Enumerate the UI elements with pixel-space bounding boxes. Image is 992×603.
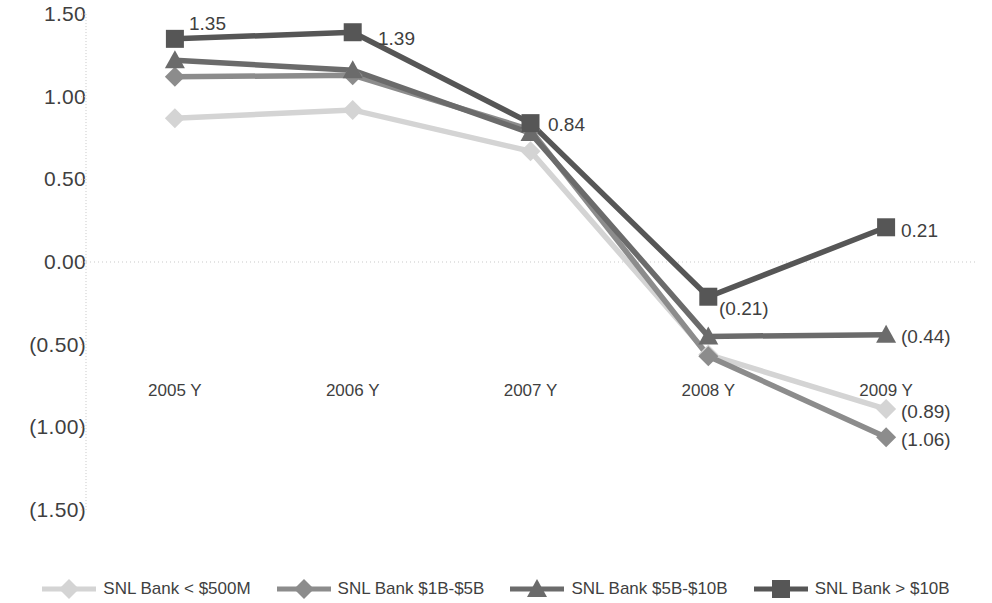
series-data-point bbox=[165, 108, 185, 128]
x-axis-tick-label: 2009 Y bbox=[859, 381, 913, 401]
data-point-label: 1.39 bbox=[378, 28, 415, 50]
series-data-point bbox=[166, 30, 184, 48]
legend-point bbox=[59, 579, 79, 599]
series-data-point bbox=[343, 100, 363, 120]
data-point-label: 1.35 bbox=[189, 13, 226, 35]
x-axis-tick-label: 2007 Y bbox=[504, 381, 558, 401]
data-point-label: 0.84 bbox=[548, 114, 585, 136]
series-data-point bbox=[876, 399, 896, 419]
data-point-label: (0.89) bbox=[901, 401, 951, 423]
axis-group bbox=[81, 14, 975, 510]
series-data-point bbox=[522, 114, 540, 132]
series-data-point bbox=[165, 67, 185, 87]
legend-point bbox=[294, 579, 314, 599]
legend-marker-icon bbox=[42, 579, 96, 599]
legend-item[interactable]: SNL Bank $5B-$10B bbox=[510, 579, 727, 599]
x-axis-tick-label: 2008 Y bbox=[682, 381, 736, 401]
x-axis-tick-label: 2006 Y bbox=[326, 381, 380, 401]
x-axis-tick-label: 2005 Y bbox=[148, 381, 202, 401]
data-point-label: (0.44) bbox=[901, 326, 951, 348]
data-point-label: (1.06) bbox=[901, 429, 951, 451]
series-line bbox=[175, 32, 886, 296]
series-line bbox=[175, 60, 886, 336]
series-data-point bbox=[876, 427, 896, 447]
chart-legend: SNL Bank < $500MSNL Bank $1B-$5BSNL Bank… bbox=[0, 579, 992, 599]
legend-item[interactable]: SNL Bank $1B-$5B bbox=[277, 579, 485, 599]
legend-item-label: SNL Bank $5B-$10B bbox=[571, 579, 727, 599]
legend-point bbox=[772, 580, 790, 598]
series-data-point bbox=[344, 23, 362, 41]
legend-item-label: SNL Bank < $500M bbox=[103, 579, 250, 599]
series-data-point bbox=[877, 218, 895, 236]
legend-item-label: SNL Bank > $10B bbox=[815, 579, 950, 599]
series-data-point bbox=[699, 288, 717, 306]
legend-marker-icon bbox=[754, 579, 808, 599]
data-point-label: (0.21) bbox=[719, 298, 769, 320]
data-point-label: 0.21 bbox=[901, 220, 938, 242]
legend-marker-icon bbox=[510, 579, 564, 599]
plot-area bbox=[0, 0, 992, 560]
legend-item[interactable]: SNL Bank < $500M bbox=[42, 579, 250, 599]
line-chart: 1.501.000.500.00(0.50)(1.00)(1.50) 2005 … bbox=[0, 0, 992, 603]
legend-marker-icon bbox=[277, 579, 331, 599]
legend-item-label: SNL Bank $1B-$5B bbox=[338, 579, 485, 599]
legend-item[interactable]: SNL Bank > $10B bbox=[754, 579, 950, 599]
